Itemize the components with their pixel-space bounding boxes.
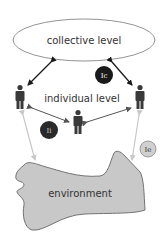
person-left-icon bbox=[16, 85, 25, 109]
arrow-collective-right-person bbox=[112, 62, 132, 85]
arrow-right-person-environment bbox=[132, 115, 139, 160]
arrow-left-person-environment bbox=[23, 115, 35, 160]
ic-badge-label: Ic bbox=[101, 72, 108, 80]
ii-badge: Ii bbox=[40, 121, 58, 139]
collective-level-label: collective level bbox=[47, 35, 122, 46]
arrow-collective-left-person bbox=[28, 62, 51, 85]
person-right-icon bbox=[136, 85, 145, 109]
levels-diagram: collective level Ic individual level Ii bbox=[0, 0, 168, 245]
ie-badge-label: Ie bbox=[145, 146, 152, 154]
person-center-icon bbox=[74, 110, 83, 134]
arrow-center-right-person bbox=[87, 108, 131, 122]
collective-level-node: collective level bbox=[13, 19, 155, 61]
environment-node: environment bbox=[16, 151, 145, 230]
individual-level-label: individual level bbox=[44, 93, 120, 104]
environment-label: environment bbox=[48, 188, 112, 199]
ic-badge: Ic bbox=[95, 66, 113, 84]
ii-badge-label: Ii bbox=[46, 127, 52, 135]
ie-badge: Ie bbox=[140, 141, 156, 157]
arrow-left-center-person bbox=[32, 108, 69, 122]
